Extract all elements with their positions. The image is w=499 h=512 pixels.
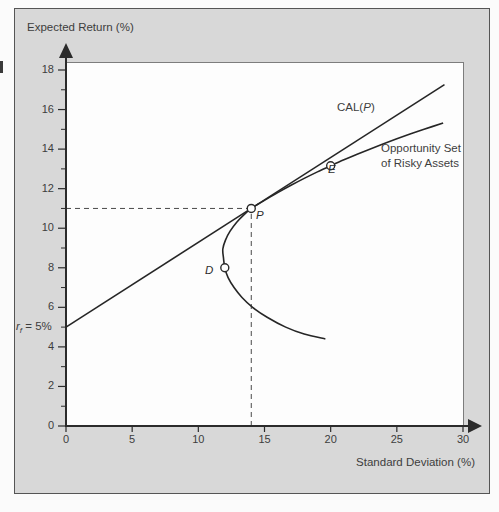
- risk-free-rate-label: rf = 5%: [16, 319, 52, 338]
- cal-label-p: P: [363, 101, 371, 113]
- x-tick-label: 5: [117, 433, 147, 445]
- opportunity-set-line2: of Risky Assets: [381, 157, 459, 169]
- x-tick-label: 15: [250, 433, 280, 445]
- y-tick-label: 12: [26, 182, 54, 194]
- x-tick-label: 0: [51, 433, 81, 445]
- y-tick-label: 16: [26, 103, 54, 115]
- opportunity-set-label: Opportunity Setof Risky Assets: [381, 141, 461, 171]
- cal-label-prefix: CAL(: [337, 101, 363, 113]
- point-marker-d: [221, 264, 229, 272]
- x-tick-label: 30: [448, 433, 478, 445]
- x-tick-label: 10: [183, 433, 213, 445]
- y-tick-label: 14: [26, 142, 54, 154]
- rf-value: = 5%: [22, 320, 52, 332]
- y-tick-label: 18: [26, 63, 54, 75]
- point-label-p: P: [256, 209, 264, 221]
- y-tick-label: 6: [26, 300, 54, 312]
- y-tick-label: 0: [26, 419, 54, 431]
- point-marker-p: [247, 204, 255, 212]
- x-axis-arrowhead: [468, 419, 482, 433]
- x-tick-label: 20: [316, 433, 346, 445]
- x-axis-title: Standard Deviation (%): [340, 455, 475, 469]
- point-label-d: D: [205, 264, 213, 276]
- y-tick-label: 2: [26, 379, 54, 391]
- y-tick-label: 4: [26, 340, 54, 352]
- opportunity-set-line1: Opportunity Set: [381, 142, 461, 154]
- cal-label: CAL(P): [337, 100, 375, 114]
- y-axis-arrowhead: [59, 43, 73, 58]
- point-label-e: E: [328, 163, 336, 175]
- y-tick-label: 8: [26, 261, 54, 273]
- y-tick-label: 10: [26, 221, 54, 233]
- x-tick-label: 25: [382, 433, 412, 445]
- y-axis-title: Expected Return (%): [27, 20, 134, 34]
- cal-label-suffix: ): [371, 101, 375, 113]
